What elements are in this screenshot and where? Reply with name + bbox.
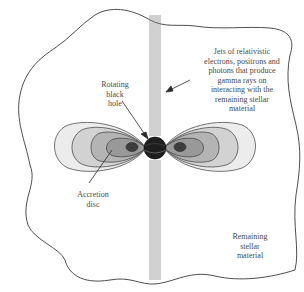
jets-label: Jets of relativistic electrons, positron… bbox=[186, 47, 298, 114]
black-hole bbox=[144, 137, 166, 159]
stellar-material-label: Remaining stellar material bbox=[222, 232, 278, 261]
black-hole-label: Rotating black hole bbox=[92, 80, 138, 109]
accretion-disc-label: Accretion disc bbox=[66, 190, 120, 209]
